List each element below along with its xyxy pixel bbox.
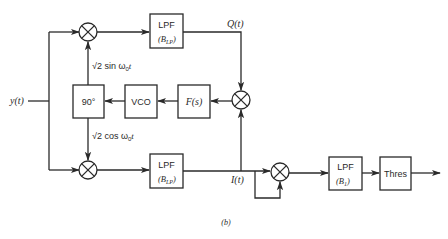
svg-text:LPF: LPF xyxy=(158,160,175,170)
bottom-multiplier xyxy=(79,161,97,179)
top-multiplier xyxy=(79,23,97,41)
phase-shift-block: 90° xyxy=(73,85,104,118)
svg-text:VCO: VCO xyxy=(131,97,151,107)
svg-text:Thres: Thres xyxy=(384,169,408,179)
input-label: y(t) xyxy=(9,95,25,107)
bottom-branch: LPF (BLP) I(t) LPF (B1) Thres xyxy=(49,110,440,198)
costas-loop-diagram: y(t) LPF (BLP) Q(t) F(s) xyxy=(0,0,448,239)
error-multiplier xyxy=(232,91,250,109)
svg-text:90°: 90° xyxy=(82,97,96,107)
lpf-b1-block: LPF (B1) xyxy=(329,157,362,190)
threshold-block: Thres xyxy=(380,157,411,190)
loop-filter-block: F(s) xyxy=(178,85,210,118)
top-branch: LPF (BLP) Q(t) xyxy=(49,14,244,90)
lpf-bottom-block: LPF (BLP) xyxy=(150,154,183,188)
i-signal-label: I(t) xyxy=(230,174,244,186)
q-signal-label: Q(t) xyxy=(227,18,244,30)
svg-text:(B1): (B1) xyxy=(336,176,350,187)
squarer-multiplier xyxy=(271,163,289,181)
vco-block: VCO xyxy=(125,85,157,118)
svg-text:LPF: LPF xyxy=(158,20,175,30)
cos-reference-label: √2 cos ω0t xyxy=(92,131,134,142)
sin-reference-label: √2 sin ω0t xyxy=(92,61,132,72)
figure-caption: (b) xyxy=(221,218,231,227)
svg-text:LPF: LPF xyxy=(337,162,354,172)
feedback-loop: F(s) VCO 90° √2 sin ω0t √2 cos ω0t xyxy=(73,42,250,160)
lpf-top-block: LPF (BLP) xyxy=(150,14,183,48)
input-signal: y(t) xyxy=(9,32,49,170)
svg-text:F(s): F(s) xyxy=(185,96,203,108)
